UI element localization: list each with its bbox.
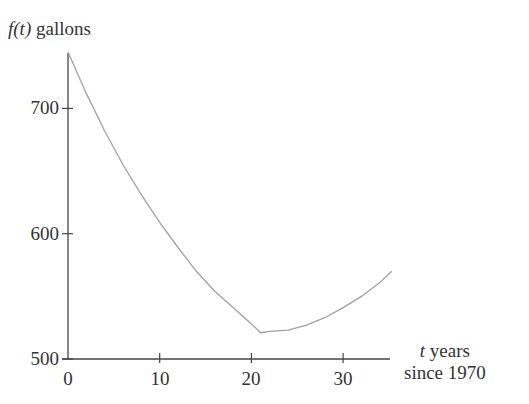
y-axis-label: f(t) gallons — [8, 18, 91, 40]
x-axis-label: t years since 1970 — [404, 340, 486, 384]
y-tick-label-700: 700 — [31, 97, 60, 119]
x-tick-label-10: 10 — [151, 368, 170, 390]
x-label-line2: since 1970 — [404, 362, 486, 384]
x-label-text: years — [425, 340, 470, 361]
y-label-italic: f(t) — [8, 18, 31, 39]
x-label-line1: t years — [404, 340, 486, 362]
x-tick-label-30: 30 — [334, 368, 353, 390]
x-tick-label-20: 20 — [242, 368, 261, 390]
axis-ticks — [62, 108, 343, 363]
y-tick-label-600: 600 — [31, 223, 60, 245]
data-curve — [68, 52, 392, 333]
y-label-text: gallons — [31, 18, 91, 39]
y-tick-label-500: 500 — [31, 348, 60, 370]
x-tick-label-0: 0 — [63, 368, 73, 390]
